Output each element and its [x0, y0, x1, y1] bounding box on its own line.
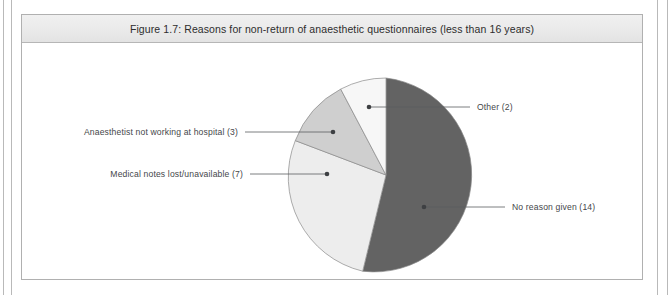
pie-chart-svg: Other (2) No reason given (14) Anaesthet… [22, 43, 642, 280]
page-rule-right-inner [657, 0, 658, 295]
figure-title-band: Figure 1.7: Reasons for non-return of an… [22, 15, 642, 43]
leader-dot-anaesthetist-not-working [331, 130, 336, 135]
figure-frame: Figure 1.7: Reasons for non-return of an… [21, 14, 643, 280]
page-rule-left-outer [3, 0, 4, 295]
leader-dot-medical-notes-lost [325, 172, 330, 177]
pie-chart-area: Other (2) No reason given (14) Anaesthet… [22, 43, 642, 280]
leader-dot-no-reason-given [422, 205, 427, 210]
page-rule-left-inner [11, 0, 12, 295]
pie-label-no-reason-given: No reason given (14) [512, 202, 595, 212]
pie-label-medical-notes-lost: Medical notes lost/unavailable (7) [110, 169, 243, 179]
figure-title: Figure 1.7: Reasons for non-return of an… [130, 23, 534, 35]
page-rule-right-outer [667, 0, 668, 295]
pie-label-other: Other (2) [477, 102, 513, 112]
leader-dot-other [367, 105, 372, 110]
pie-label-anaesthetist-not-working: Anaesthetist not working at hospital (3) [84, 127, 238, 137]
